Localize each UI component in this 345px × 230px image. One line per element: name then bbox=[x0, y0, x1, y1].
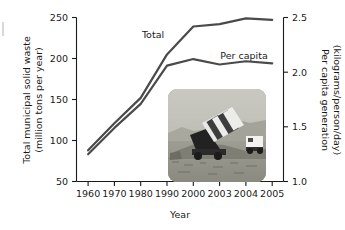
left-tick-label-0: 50 bbox=[56, 176, 68, 187]
x-tick-label-2000: 2000 bbox=[181, 188, 205, 199]
series-label-total: Total bbox=[141, 29, 164, 40]
x-tick-label-1990: 1990 bbox=[155, 188, 179, 199]
landfill-scene-illustration bbox=[168, 89, 266, 182]
left-axis-title-line2: (million tons per year) bbox=[33, 47, 44, 153]
right-axis-title-line2: (kilograms/person/day) bbox=[332, 45, 343, 155]
right-tick-label-2: 2.0 bbox=[292, 67, 307, 78]
left-tick-label-2: 150 bbox=[50, 94, 68, 105]
figure: 50 100 150 200 250 1.0 1.5 2.0 2.5 bbox=[0, 0, 345, 230]
x-tick-label-1970: 1970 bbox=[102, 188, 126, 199]
inset-photo-landfill-truck bbox=[168, 89, 266, 182]
right-tick-label-0: 1.0 bbox=[292, 176, 307, 187]
series-label-per-capita: Per capita bbox=[220, 50, 267, 61]
x-tick-label-2004: 2004 bbox=[234, 188, 258, 199]
left-tick-label-4: 250 bbox=[50, 12, 68, 23]
x-axis-tick-labels: 1960 1970 1980 1990 2000 2003 2004 2005 bbox=[76, 188, 284, 199]
right-tick-label-1: 1.5 bbox=[292, 121, 307, 132]
x-axis-title: Year bbox=[169, 209, 190, 220]
left-axis-ticks bbox=[72, 18, 77, 182]
right-axis-title-line1: Per capita generation bbox=[320, 49, 331, 151]
x-axis-ticks bbox=[88, 182, 272, 187]
left-axis-tick-labels: 50 100 150 200 250 bbox=[50, 12, 68, 187]
right-axis-tick-labels: 1.0 1.5 2.0 2.5 bbox=[292, 12, 307, 187]
right-tick-label-3: 2.5 bbox=[292, 12, 307, 23]
x-tick-label-1960: 1960 bbox=[76, 188, 100, 199]
left-tick-label-1: 100 bbox=[50, 135, 68, 146]
x-tick-label-2005: 2005 bbox=[260, 188, 284, 199]
left-tick-label-3: 200 bbox=[50, 53, 68, 64]
x-tick-label-2003: 2003 bbox=[208, 188, 232, 199]
x-tick-label-1980: 1980 bbox=[129, 188, 153, 199]
right-axis-ticks bbox=[284, 18, 289, 182]
left-axis-title-line1: Total municipal solid waste bbox=[21, 36, 32, 165]
